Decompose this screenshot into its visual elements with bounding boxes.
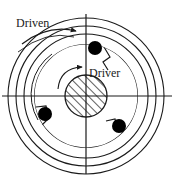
roller-top — [88, 41, 102, 55]
roller-lower-left — [38, 107, 52, 121]
driven-label: Driven — [16, 16, 49, 30]
roller-lower-right — [112, 119, 126, 133]
clutch-diagram-root: Driven Driver — [0, 0, 174, 180]
driver-label: Driver — [89, 66, 120, 80]
clutch-diagram-svg: Driven Driver — [0, 0, 174, 180]
